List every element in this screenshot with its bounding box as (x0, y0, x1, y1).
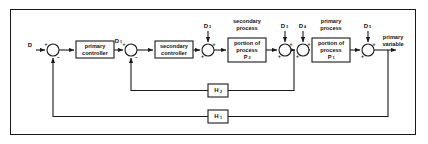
h1-subscript: 1 (220, 116, 222, 120)
secondary-process-subscript: 2 (249, 56, 251, 60)
wire-h2-box-to-sum-inner (131, 58, 208, 91)
disturbance-label-d4: D 4 (299, 23, 307, 29)
sum-d4-sign-left: + (296, 53, 299, 59)
primary-process-label-line3: P (328, 54, 332, 60)
h2-symbol: H (214, 87, 218, 93)
input-signal-label: D (28, 42, 33, 48)
secondary-process-label-line2: process (236, 47, 257, 53)
sum-outer-sign-left: + (45, 41, 48, 47)
secondary-process-label-line3: P (244, 54, 248, 60)
summing-junction-d3[interactable]: + + (278, 41, 293, 59)
summing-junction-d5[interactable]: + + (361, 41, 376, 59)
primary-process-subscript: 1 (333, 56, 335, 60)
summing-junction-d4[interactable]: + + (296, 41, 311, 59)
primary-process-label-line2: process (320, 47, 341, 53)
h1-symbol: H (214, 113, 218, 119)
output-label-line1: primary (383, 34, 404, 40)
sum-d4-sign-top: + (308, 41, 311, 47)
primary-process-title-line2: process (320, 25, 341, 31)
primary-process-label-line1: portion of (318, 40, 344, 46)
d3-subscript: 3 (286, 25, 288, 29)
summing-junction-d2[interactable]: + + (201, 41, 216, 59)
d2-subscript: 2 (209, 25, 211, 29)
figure-canvas: primary controller secondary controller … (0, 0, 428, 144)
d4-subscript: 4 (304, 25, 307, 29)
group-label-primary-process: primary process (320, 18, 342, 31)
sum-d3-sign-top: + (290, 41, 293, 47)
output-label-line2: variable (382, 41, 403, 47)
sum-inner-sign-bottom: − (135, 54, 138, 60)
block-secondary-controller[interactable]: secondary controller (155, 41, 193, 58)
disturbance-label-d5: D 5 (364, 23, 371, 29)
secondary-controller-label-line2: controller (161, 50, 188, 56)
summing-junction-inner[interactable]: + − (123, 41, 139, 60)
h2-subscript: 2 (220, 90, 222, 94)
summing-junction-outer[interactable]: + − (45, 41, 61, 60)
sum-d3-sign-left: + (278, 53, 281, 59)
d5-subscript: 5 (369, 25, 371, 29)
disturbance-label-d2: D 2 (204, 23, 211, 29)
secondary-controller-label-line1: secondary (160, 43, 189, 49)
secondary-process-label-line1: portion of (234, 40, 260, 46)
primary-process-title-line1: primary (321, 18, 342, 24)
sum-d5-sign-top: + (373, 41, 376, 47)
output-signal-label: primary variable (382, 34, 404, 47)
primary-controller-label-line1: primary (85, 43, 106, 49)
secondary-process-title-line1: secondary (233, 18, 262, 24)
disturbance-label-d3: D 3 (281, 23, 288, 29)
block-primary-process[interactable]: portion of process P 1 (312, 38, 350, 62)
sum-d5-sign-left: + (361, 53, 364, 59)
group-label-secondary-process: secondary process (233, 18, 262, 31)
sum-inner-sign-left: + (123, 41, 126, 47)
primary-controller-label-line2: controller (82, 50, 109, 56)
secondary-process-title-line2: process (236, 25, 257, 31)
input-symbol: D (28, 42, 33, 48)
intermediate-signal-label: D 1 (115, 38, 122, 44)
sum-d2-sign-top: + (213, 41, 216, 47)
intermediate-subscript: 1 (120, 40, 122, 44)
sum-outer-sign-bottom: − (57, 54, 60, 60)
block-primary-controller[interactable]: primary controller (76, 41, 114, 58)
sum-d2-sign-left: + (201, 53, 204, 59)
block-secondary-process[interactable]: portion of process P 2 (228, 38, 266, 62)
cascade-control-block-diagram: primary controller secondary controller … (0, 0, 428, 144)
